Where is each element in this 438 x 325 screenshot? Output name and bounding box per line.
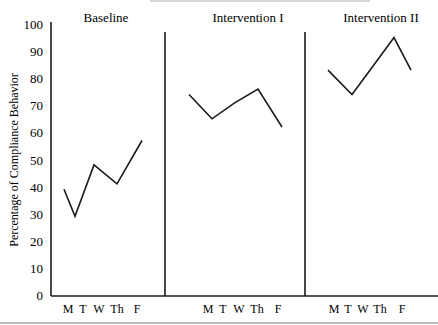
x-axis-ticks: MTWThFMTWThFMTWThF [63,302,406,316]
compliance-chart: Percentage of Compliance Behavior 010203… [0,0,438,325]
y-tick-label: 30 [30,207,43,222]
y-tick-label: 70 [30,98,43,113]
cropped-title-remnant [150,0,370,2]
x-tick-label: M [63,302,74,316]
series-line-intervention-ii [328,38,411,95]
phase-title-baseline: Baseline [84,10,129,25]
data-series [64,38,411,217]
x-tick-label: W [93,302,105,316]
x-tick-label: T [79,302,87,316]
y-tick-label: 50 [30,153,43,168]
x-tick-label: F [399,302,406,316]
x-tick-label: M [329,302,340,316]
y-tick-label: 40 [30,180,43,195]
x-tick-label: W [233,302,245,316]
x-tick-label: T [219,302,227,316]
y-tick-label: 20 [30,234,43,249]
x-tick-label: Th [110,302,123,316]
x-tick-label: M [203,302,214,316]
x-tick-label: Th [250,302,263,316]
y-tick-label: 60 [30,125,43,140]
phase-title-intervention-1: Intervention I [212,10,283,25]
x-tick-label: F [134,302,141,316]
y-tick-label: 90 [30,44,43,59]
x-tick-label: Th [373,302,386,316]
y-tick-label: 80 [30,71,43,86]
series-line-intervention-i [189,89,282,127]
phase-title-intervention-2: Intervention II [343,10,418,25]
y-tick-label: 100 [24,17,44,32]
series-line-baseline [64,141,142,217]
x-tick-label: T [344,302,352,316]
x-tick-label: W [357,302,369,316]
y-tick-label: 10 [30,261,43,276]
y-axis-ticks: 0102030405060708090100 [24,17,44,303]
y-axis-label: Percentage of Compliance Behavior [7,73,21,247]
x-tick-label: F [275,302,282,316]
y-tick-label: 0 [37,288,44,303]
